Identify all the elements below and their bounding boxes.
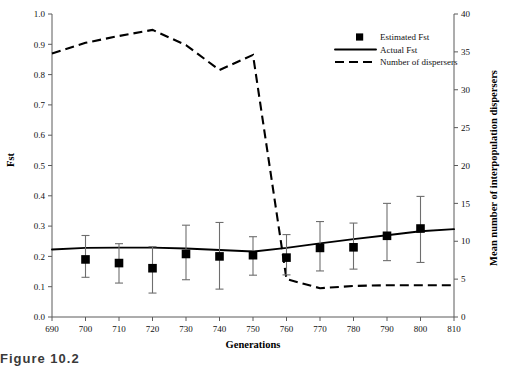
- right-tick-label: 25: [461, 123, 471, 133]
- left-tick-label: 0.6: [34, 130, 46, 140]
- x-axis-title: Generations: [226, 339, 281, 350]
- x-tick-label: 800: [414, 324, 428, 334]
- data-point-marker: [249, 251, 258, 260]
- series-estimated-fst: [81, 196, 425, 293]
- bottom-axis-ticks: 690700710720730740750760770780790800810: [45, 317, 461, 334]
- left-tick-label: 0.4: [34, 191, 46, 201]
- data-point-marker: [115, 259, 124, 268]
- x-tick-label: 710: [112, 324, 126, 334]
- data-point-marker: [416, 224, 425, 233]
- left-tick-label: 1.0: [34, 9, 46, 19]
- figure-caption-region: Figure 10.2: [0, 352, 525, 366]
- data-point-marker: [215, 252, 224, 261]
- left-tick-label: 0.9: [34, 40, 46, 50]
- x-tick-label: 700: [79, 324, 93, 334]
- data-point-marker: [148, 264, 157, 273]
- legend-label: Number of dispersers: [380, 57, 458, 67]
- legend-square-marker: [356, 33, 363, 40]
- right-tick-label: 15: [461, 199, 471, 209]
- left-tick-label: 0.5: [34, 161, 46, 171]
- x-tick-label: 750: [246, 324, 260, 334]
- left-tick-label: 0.0: [34, 312, 46, 322]
- data-point-marker: [282, 253, 291, 262]
- x-tick-label: 690: [45, 324, 59, 334]
- x-tick-label: 760: [280, 324, 294, 334]
- left-tick-label: 0.3: [34, 221, 46, 231]
- right-axis-ticks: 0510152025303540: [454, 9, 471, 322]
- data-point-marker: [182, 250, 191, 259]
- legend-label: Actual Fst: [380, 45, 418, 55]
- right-tick-label: 30: [461, 85, 471, 95]
- left-tick-label: 0.8: [34, 70, 46, 80]
- x-tick-label: 810: [447, 324, 461, 334]
- x-tick-label: 730: [179, 324, 193, 334]
- left-axis-ticks: 0.00.10.20.30.40.50.60.70.80.91.0: [34, 9, 52, 322]
- data-point-marker: [349, 243, 358, 252]
- x-tick-label: 740: [213, 324, 227, 334]
- right-tick-label: 40: [461, 9, 471, 19]
- right-tick-label: 0: [461, 312, 466, 322]
- x-tick-label: 770: [313, 324, 327, 334]
- data-point-marker: [316, 244, 325, 253]
- right-tick-label: 10: [461, 236, 471, 246]
- x-tick-label: 790: [380, 324, 394, 334]
- y2-axis-title: Mean number of interpopulation disperser…: [488, 70, 499, 266]
- left-tick-label: 0.1: [34, 282, 45, 292]
- y-axis-title: Fst: [5, 153, 16, 168]
- data-point-marker: [81, 255, 90, 264]
- x-tick-label: 720: [146, 324, 160, 334]
- figure-container: 0.00.10.20.30.40.50.60.70.80.91.0 051015…: [0, 0, 525, 366]
- chart-legend: Estimated FstActual FstNumber of dispers…: [335, 32, 458, 67]
- figure-caption: Figure 10.2: [0, 352, 525, 365]
- left-tick-label: 0.7: [34, 100, 46, 110]
- data-point-marker: [383, 231, 392, 240]
- right-tick-label: 20: [461, 161, 471, 171]
- x-tick-label: 780: [347, 324, 361, 334]
- left-tick-label: 0.2: [34, 252, 45, 262]
- legend-label: Estimated Fst: [380, 32, 430, 42]
- right-tick-label: 35: [461, 47, 471, 57]
- right-tick-label: 5: [461, 274, 466, 284]
- chart-canvas: 0.00.10.20.30.40.50.60.70.80.91.0 051015…: [0, 0, 525, 366]
